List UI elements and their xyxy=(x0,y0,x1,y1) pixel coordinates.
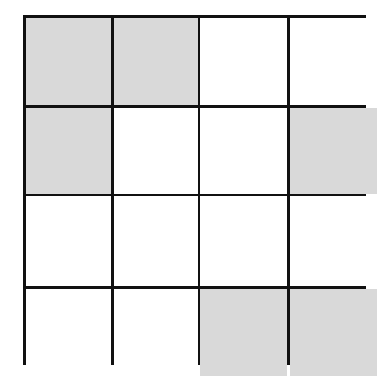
shaded-cell-r4-c4 xyxy=(290,289,377,376)
empty-cell-r3-c4 xyxy=(290,196,377,286)
empty-cell-r3-c2 xyxy=(114,196,198,286)
empty-cell-r3-c3 xyxy=(200,196,287,286)
shaded-cell-r2-c1 xyxy=(26,108,111,194)
shaded-cell-r1-c1 xyxy=(26,18,111,105)
shaded-grid xyxy=(23,15,366,365)
empty-cell-r1-c4 xyxy=(290,18,377,105)
shaded-cell-r1-c2 xyxy=(114,18,198,105)
empty-cell-r2-c2 xyxy=(114,108,198,194)
shaded-cell-r4-c3 xyxy=(200,289,287,376)
empty-cell-r3-c1 xyxy=(26,196,111,286)
shaded-cell-r2-c4 xyxy=(290,108,377,194)
empty-cell-r2-c3 xyxy=(200,108,287,194)
empty-cell-r4-c1 xyxy=(26,289,111,376)
empty-cell-r4-c2 xyxy=(114,289,198,376)
empty-cell-r1-c3 xyxy=(200,18,287,105)
